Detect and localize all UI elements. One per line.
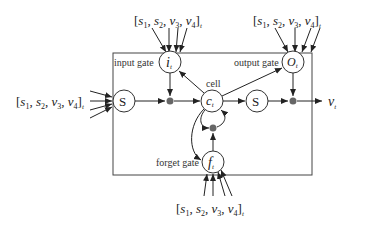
lstm-diagram: [s1, s2, v3, v4]t [s1, s2, v3, v4]t inpu… (0, 0, 366, 228)
svg-text:[s1, s2, v3, v4]t: [s1, s2, v3, v4]t (253, 13, 322, 30)
forget-multiply-dot (210, 125, 217, 132)
svg-text:[s1, s2, v3, v4]t: [s1, s2, v3, v4]t (134, 13, 203, 30)
output-gate-input-vector: [s1, s2, v3, v4]t (253, 13, 322, 30)
input-gate-input-vector: [s1, s2, v3, v4]t (134, 13, 203, 30)
svg-text:[s1, s2, v3, v4]t: [s1, s2, v3, v4]t (176, 201, 245, 218)
input-squash-symbol: S (119, 94, 126, 109)
output-multiply-dot (290, 98, 297, 105)
forget-gate-label: forget gate (156, 157, 199, 168)
output-gate-label: output gate (234, 57, 279, 68)
input-multiply-dot (167, 98, 174, 105)
cell-input-vector: [s1, s2, v3, v4]t (16, 94, 85, 111)
forget-gate-input-vector: [s1, s2, v3, v4]t (176, 201, 245, 218)
output-v-t: vt (328, 94, 337, 111)
svg-text:[s1, s2, v3, v4]t: [s1, s2, v3, v4]t (16, 94, 85, 111)
cell-label: cell (206, 78, 221, 89)
input-gate-label: input gate (114, 57, 154, 68)
output-squash-symbol: S (252, 94, 259, 109)
